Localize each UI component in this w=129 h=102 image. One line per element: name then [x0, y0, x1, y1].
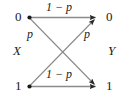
node-label-input-0: 0	[15, 10, 22, 23]
edge-label-right-crossover: p	[84, 28, 90, 40]
edge-label-bottom-transition: 1 − p	[46, 68, 72, 80]
edge-label-top-transition: 1 − p	[46, 1, 72, 13]
output-variable-label: Y	[108, 44, 115, 57]
node-input-1	[27, 84, 31, 88]
node-label-output-1: 1	[106, 79, 113, 92]
node-input-0	[27, 15, 31, 19]
edge-label-left-crossover: p	[27, 28, 33, 40]
binary-symmetric-channel-diagram: 0 1 0 1 X Y 1 − p 1 − p p p	[0, 0, 129, 102]
node-label-input-1: 1	[15, 79, 22, 92]
node-label-output-0: 0	[106, 10, 113, 23]
input-variable-label: X	[13, 44, 21, 57]
